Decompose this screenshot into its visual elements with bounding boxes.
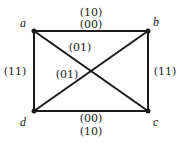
edge-ac-label: (01) [69, 41, 92, 54]
vertex-a-label: a [20, 16, 26, 30]
edge-dc-label-bottom: (10) [80, 125, 103, 138]
edge-dc-label-top: (00) [80, 112, 103, 125]
vertex-c-dot [146, 109, 151, 114]
vertex-d-label: d [20, 115, 27, 129]
graph-diagram: a b c d (10) (00) (00) (10) (11) (11) (0… [0, 0, 182, 144]
edge-ad-label: (11) [4, 65, 27, 78]
vertex-b-dot [146, 29, 151, 34]
vertex-d-dot [32, 109, 37, 114]
edge-bc-label: (11) [154, 65, 177, 78]
vertex-c-label: c [153, 115, 159, 129]
vertex-b-label: b [153, 15, 159, 29]
edge-ab-label-bottom: (00) [80, 18, 103, 31]
edge-bd-label: (01) [56, 68, 79, 81]
vertex-a-dot [32, 29, 37, 34]
